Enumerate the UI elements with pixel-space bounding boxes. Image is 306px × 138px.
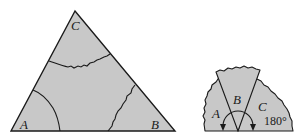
wedge-label-c: C <box>258 99 267 114</box>
angle-label-180: 180° <box>264 114 287 128</box>
vertex-label-b: B <box>151 117 159 132</box>
wedge-label-a: A <box>211 106 220 121</box>
vertex-label-c: C <box>71 18 80 33</box>
angle-sum-diagram: C A B A B C 180° <box>0 0 306 138</box>
triangle: C A B <box>11 11 175 132</box>
wedge-label-b: B <box>233 92 241 107</box>
triangle-shape <box>11 11 175 131</box>
vertex-label-a: A <box>19 117 28 132</box>
straight-angle-assembly: A B C 180° <box>203 66 293 131</box>
